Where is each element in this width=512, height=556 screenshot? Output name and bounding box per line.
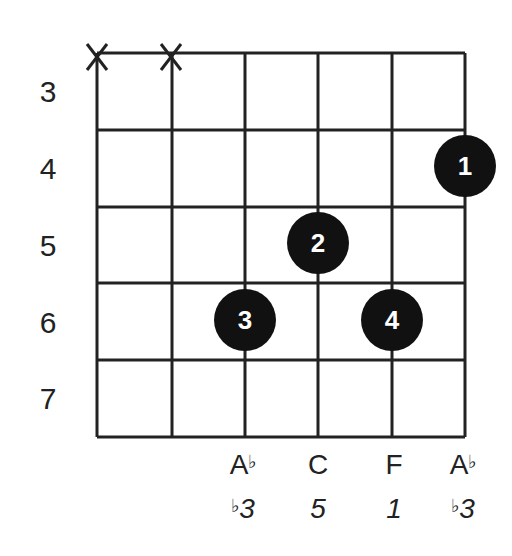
chord-diagram: 3 4 5 6 7 1 2 3 4 A♭ C F A♭ ♭3 5 1 ♭3	[0, 0, 512, 556]
note-name: C	[308, 449, 328, 480]
fret-number: 5	[40, 229, 57, 262]
finger-dot: 4	[361, 289, 423, 351]
finger-dot: 2	[287, 212, 349, 274]
fretboard-grid	[97, 53, 465, 437]
interval-label: ♭3	[451, 493, 475, 524]
finger-number: 4	[385, 305, 400, 335]
interval-label: 5	[310, 493, 326, 524]
fret-number: 6	[40, 306, 57, 339]
fret-numbers: 3 4 5 6 7	[40, 75, 57, 415]
intervals: ♭3 5 1 ♭3	[231, 493, 475, 524]
muted-string-marks	[87, 44, 181, 70]
finger-dot: 3	[214, 289, 276, 351]
interval-label: ♭3	[231, 493, 255, 524]
finger-dot: 1	[434, 135, 496, 197]
fret-number: 7	[40, 382, 57, 415]
fret-number: 3	[40, 75, 57, 108]
note-names: A♭ C F A♭	[230, 449, 477, 480]
note-name: A♭	[230, 449, 257, 480]
note-name: F	[385, 449, 402, 480]
finger-number: 2	[311, 228, 325, 258]
finger-number: 3	[238, 305, 252, 335]
fret-number: 4	[40, 152, 57, 185]
interval-label: 1	[386, 493, 402, 524]
note-name: A♭	[450, 449, 477, 480]
finger-number: 1	[458, 151, 472, 181]
